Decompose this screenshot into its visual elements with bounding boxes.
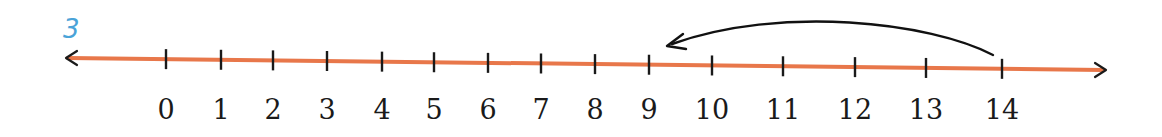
tick-label: 6 xyxy=(479,94,496,125)
tick-label: 0 xyxy=(157,94,174,125)
number-line-axis xyxy=(68,58,1103,70)
tick-label: 8 xyxy=(586,94,603,125)
tick-label: 10 xyxy=(695,94,729,125)
tick-label: 7 xyxy=(532,94,549,125)
tick-label: 12 xyxy=(838,94,872,125)
tick-label: 5 xyxy=(425,94,442,125)
tick-label: 2 xyxy=(264,94,281,125)
tick-label: 3 xyxy=(318,94,335,125)
tick-label: 13 xyxy=(909,94,943,125)
number-line-diagram: 3 01234567891011121314 xyxy=(0,0,1162,137)
tick-label: 4 xyxy=(373,94,390,125)
tick-label: 1 xyxy=(212,94,229,125)
tick-label: 11 xyxy=(766,94,800,125)
tick-label: 14 xyxy=(985,94,1019,125)
tick-label: 9 xyxy=(640,94,657,125)
jump-arc xyxy=(672,22,993,55)
